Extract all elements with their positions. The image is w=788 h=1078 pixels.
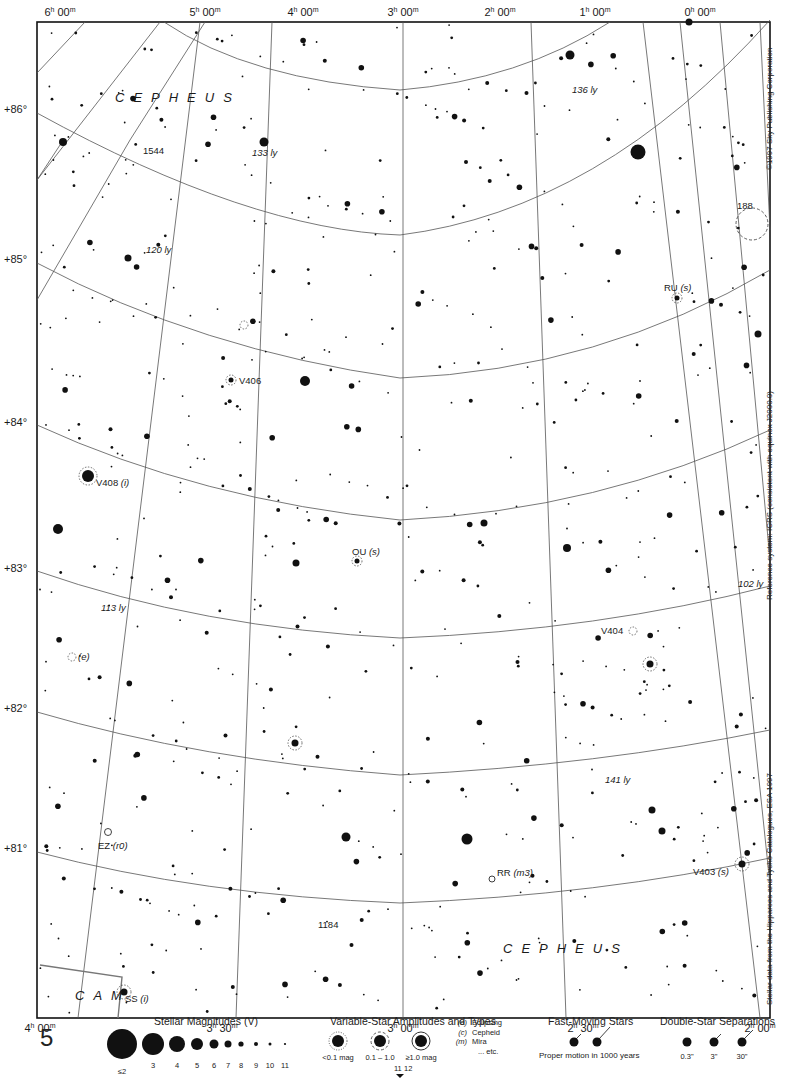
ra-line-5h (37, 145, 60, 180)
ra-line-3h30 (236, 22, 272, 1018)
chart-annotation: SS (i) (125, 993, 149, 1004)
page-number: 5 (40, 1024, 53, 1052)
dec-line-81 (37, 852, 770, 903)
chart-annotation: EZ (r0) (98, 840, 128, 851)
chart-annotation: 120 ly (146, 244, 173, 255)
chart-annotation: V406 (239, 375, 261, 386)
chart-annotation: 113 ly (101, 602, 127, 613)
legend-fast-moving-title: Fast-Moving Stars (548, 1015, 633, 1027)
constellation-name: CAM (75, 988, 131, 1003)
chart-annotation: OU (s) (352, 546, 380, 557)
ra-tick-label: 6h 00m (44, 6, 75, 18)
dec-tick-label: +83° (4, 562, 27, 574)
ra-tick-label: 1h 00m (579, 6, 610, 18)
dec-line-86 (37, 20, 770, 235)
chart-annotation: 1184 (318, 919, 338, 930)
chart-annotation: RR (m3) (497, 867, 533, 878)
chart-annotation: V408 (i) (96, 477, 129, 488)
reference-system-note: Reference system: ICRS (consistent with … (765, 391, 774, 600)
chart-annotation: 136 ly (572, 84, 599, 95)
dec-tick-label: +86° (4, 103, 27, 115)
chart-annotation: V403 (s) (693, 866, 729, 877)
ra-tick-label: 5h 00m (189, 6, 220, 18)
dec-line-84 (37, 425, 770, 520)
dec-line-85 (37, 263, 770, 378)
ra-tick-label: 0h 00m (684, 6, 715, 18)
chart-annotation: 102 ly (738, 578, 765, 589)
ra-tick-label: 4h 00m (287, 6, 318, 18)
dec-line-87 (164, 22, 610, 90)
legend-variables-title: Variable-Star Amplitudes and Types (330, 1015, 496, 1027)
chart-annotation: 133 ly (252, 147, 279, 158)
legend-doubles-title: Double-Star Separations (660, 1015, 775, 1027)
copyright-note: ©1997 Sky Publishing Corporation (765, 48, 774, 170)
chart-annotation: RU (s) (664, 282, 691, 293)
ra-line-4h (78, 22, 200, 1018)
chart-annotation: (e) (78, 651, 90, 662)
star-chart: 6h 00m5h 00m4h 00m3h 00m2h 00m1h 00m0h 0… (0, 0, 788, 1078)
constellation-name: CEPHEUS (503, 941, 629, 956)
data-source-note: Stellar data from the Hipparcos and Tych… (765, 773, 774, 1005)
chart-annotation: 141 ly (605, 774, 632, 785)
coordinate-grid (37, 20, 770, 1018)
ra-tick-label: 2h 00m (484, 6, 515, 18)
dec-tick-label: +85° (4, 253, 27, 265)
cluster-188-outline (736, 208, 768, 240)
chart-annotation: V404 (601, 625, 623, 636)
dec-tick-label: +84° (4, 416, 27, 428)
ra-tick-label: 3h 00m (387, 6, 418, 18)
dec-tick-label: +81° (4, 842, 27, 854)
chart-annotation: 188 (737, 200, 753, 211)
legend-fast-moving-caption: Proper motion in 1000 years (539, 1051, 640, 1060)
constellation-name: CEPHEUS (115, 90, 241, 105)
chart-annotation: 1544 (143, 145, 164, 156)
ra-line-4h30 (37, 22, 205, 300)
legend-magnitudes-title: Stellar Magnitudes (V) (154, 1015, 258, 1027)
chart-labels: 6h 00m5h 00m4h 00m3h 00m2h 00m1h 00m0h 0… (4, 6, 776, 1034)
dec-tick-label: +82° (4, 702, 27, 714)
dec-line-83 (37, 571, 770, 638)
ra-line-2h30 (531, 22, 566, 1018)
ra-line-6h (37, 22, 85, 73)
dec-line-82 (37, 712, 770, 775)
